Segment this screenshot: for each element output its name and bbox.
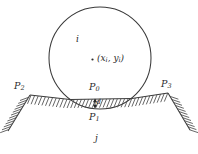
point-label-p3: P3	[161, 79, 172, 90]
boundary-hatching-right-tail	[170, 96, 198, 132]
particle-center-dot	[91, 58, 93, 60]
particle-label: i	[76, 35, 79, 44]
p2-subscript: 2	[21, 84, 25, 92]
coord-close-paren: )	[121, 53, 125, 63]
p2-letter: P	[14, 80, 20, 91]
diagram-canvas	[0, 0, 198, 154]
p3-subscript: 3	[168, 82, 172, 90]
boundary-segment-left	[30, 95, 70, 100]
point-label-p2: P2	[14, 81, 25, 92]
boundary-segment-contact	[70, 99, 132, 100]
p1-letter: P	[89, 111, 95, 122]
p0-subscript: 0	[96, 85, 100, 93]
boundary-hatching-left-tail	[0, 97, 28, 132]
boundary-label: j	[95, 134, 98, 143]
point-label-p0: P0	[89, 82, 100, 93]
p3-letter: P	[161, 78, 167, 89]
point-label-p1: P1	[89, 112, 100, 123]
contact-diagram-figure: i (xi, yi) P0 P1 P2 P3 d j	[0, 0, 198, 154]
p1-subscript: 1	[96, 115, 100, 123]
overlap-label: d	[97, 99, 101, 106]
particle-center-coordinate-label: (xi, yi)	[97, 54, 124, 64]
p0-letter: P	[89, 81, 95, 92]
